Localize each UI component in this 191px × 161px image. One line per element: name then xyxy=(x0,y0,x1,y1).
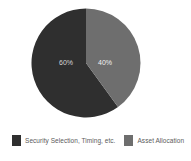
pie-chart-plot-area: 60% 40% xyxy=(31,8,141,118)
pie-slice-label-asset-allocation: 40% xyxy=(98,59,112,66)
legend-swatch-asset-allocation-icon xyxy=(124,135,133,146)
legend-item-asset-allocation[interactable]: Asset Allocation xyxy=(124,135,184,146)
legend-swatch-security-selection-icon xyxy=(12,135,21,146)
legend-item-security-selection[interactable]: Security Selection, Timing, etc. xyxy=(12,135,115,146)
legend-label-security-selection: Security Selection, Timing, etc. xyxy=(25,137,115,144)
pie-chart-figure: 60% 40% Security Selection, Timing, etc.… xyxy=(0,0,191,161)
pie-chart-svg: 60% 40% xyxy=(31,8,141,118)
chart-legend: Security Selection, Timing, etc. Asset A… xyxy=(0,130,191,150)
pie-slice-label-security-selection: 60% xyxy=(59,59,73,66)
legend-label-asset-allocation: Asset Allocation xyxy=(137,137,184,144)
